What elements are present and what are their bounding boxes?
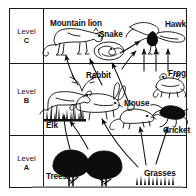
arrow-trees-to-elk: [64, 115, 70, 149]
arrow-elk-to-mountain-lion: [66, 55, 78, 85]
arrow-rabbit-to-hawk: [122, 51, 136, 69]
diagram-frame: Level C Level B Level A: [9, 8, 187, 188]
organism-label-elk: Elk: [46, 121, 58, 130]
organism-label-cricket: Cricket: [163, 126, 190, 135]
arrow-mouse-to-snake: [112, 63, 128, 101]
arrow-trees-to-elk-2: [70, 121, 88, 149]
organism-label-mouse: Mouse: [124, 99, 149, 108]
organism-label-trees: Trees: [46, 172, 67, 181]
arrow-snake-to-hawk: [120, 41, 140, 53]
organism-label-hawk: Hawk: [165, 20, 186, 29]
organism-label-rabbit: Rabbit: [86, 71, 111, 80]
organism-label-grasses: Grasses: [144, 169, 176, 178]
arrow-grasses-to-mouse: [140, 127, 146, 165]
organism-label-mountain-lion: Mountain lion: [50, 19, 102, 28]
organism-label-snake: Snake: [99, 30, 123, 39]
arrow-grasses-to-rabbit: [102, 119, 138, 167]
food-web-diagram: Level C Level B Level A: [0, 0, 196, 196]
organism-label-frog: Frog: [168, 69, 186, 78]
